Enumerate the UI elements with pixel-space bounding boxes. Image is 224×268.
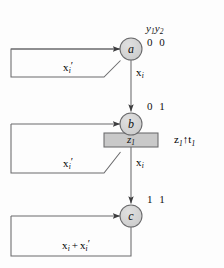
plus-sign: + <box>70 239 80 251</box>
edge-label-b-self: xi′ <box>63 156 73 171</box>
edge-label-b-to-c: xi <box>136 156 144 170</box>
state-code-c: 1 1 <box>147 193 167 205</box>
node-a-label: a <box>128 42 134 57</box>
x-prime: ′ <box>71 60 73 71</box>
x-prime-second: ′ <box>88 238 90 249</box>
t-subscript: 1 <box>191 139 195 148</box>
y2-var: y <box>155 22 160 34</box>
node-c-label: c <box>128 209 133 224</box>
diagram-canvas: y1y2 0 0 0 1 1 1 a b c z1 xi′ xi xi′ xi … <box>0 0 224 268</box>
edge-label-a-to-b: xi <box>136 66 144 80</box>
x-prime: ′ <box>71 156 73 167</box>
node-b-label: b <box>128 117 134 132</box>
edge-label-a-self: xi′ <box>63 60 73 75</box>
output-timing-annotation: z1↑t1 <box>174 133 195 148</box>
z-subscript: 1 <box>131 138 135 147</box>
state-code-a: 0 0 <box>147 36 167 48</box>
output-box-label: z1 <box>127 133 135 147</box>
x-var-first: x <box>62 239 68 251</box>
x-subscript: i <box>142 71 144 80</box>
x-var: x <box>136 66 142 78</box>
state-code-b: 0 1 <box>147 100 167 112</box>
edge-label-c-self: xi+xi′ <box>62 238 90 253</box>
x-subscript: i <box>142 161 144 170</box>
y2-subscript: 2 <box>160 27 164 36</box>
x-var: x <box>136 156 142 168</box>
state-variables-header: y1y2 <box>146 22 164 36</box>
x-var: x <box>63 61 69 73</box>
x-var: x <box>63 157 69 169</box>
